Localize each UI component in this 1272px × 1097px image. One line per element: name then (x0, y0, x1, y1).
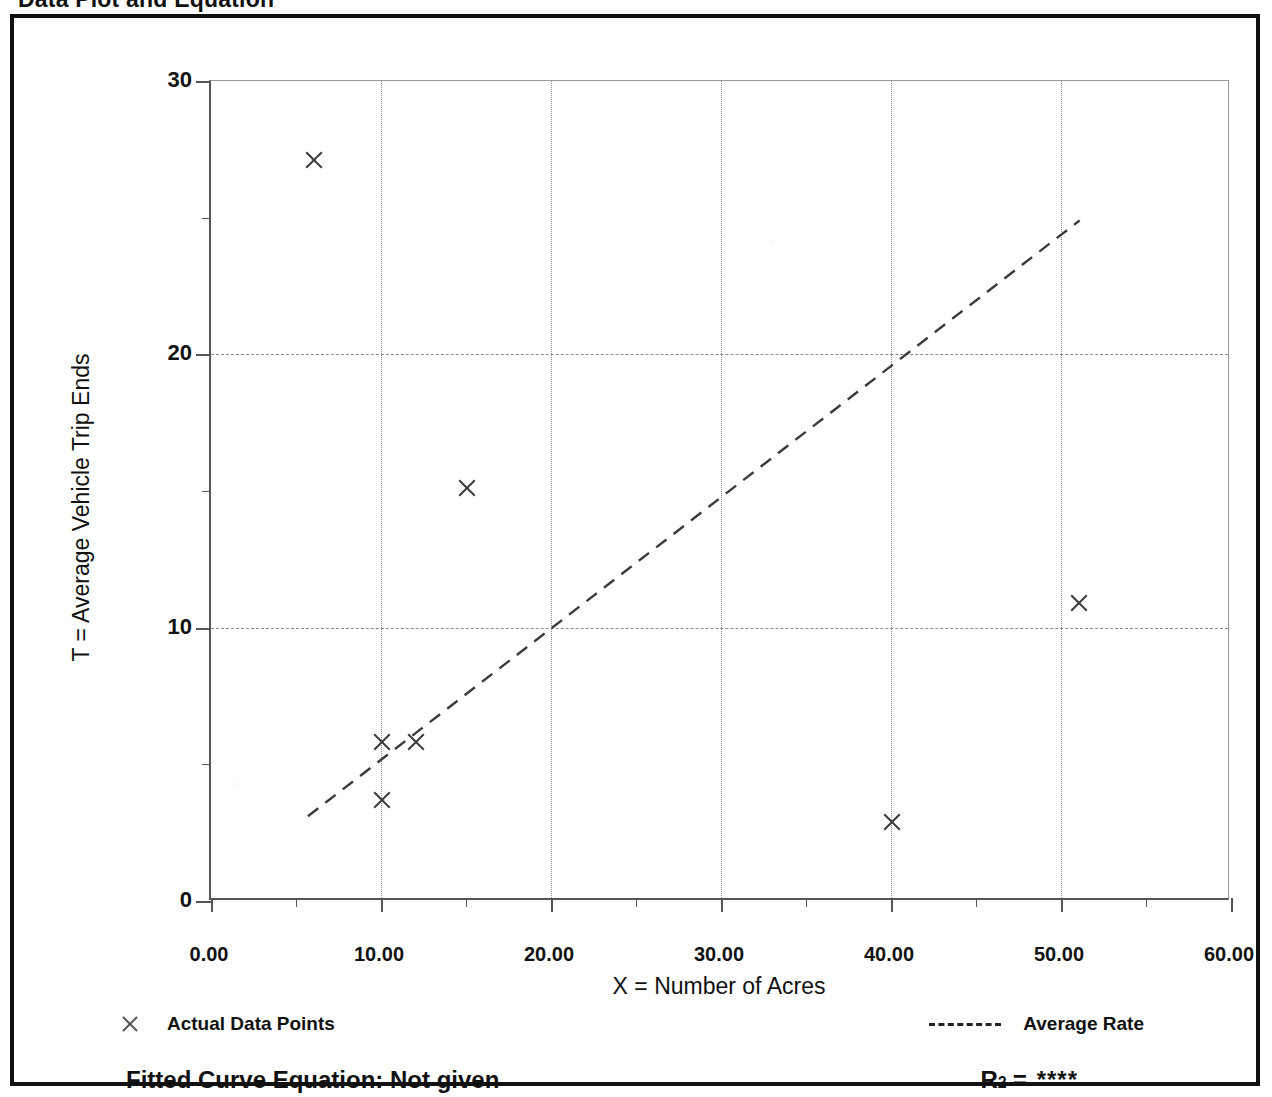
x-axis-tick-label: 0.00 (190, 943, 229, 966)
y-axis-minor-tick (202, 764, 211, 765)
r-squared-equals: = (1013, 1066, 1027, 1094)
chart-legend: Actual Data Points Average Rate (14, 1013, 1256, 1043)
x-axis-tick-label: 40.00 (864, 943, 914, 966)
r-squared-label: R (980, 1066, 997, 1094)
y-axis-tick-label: 10 (144, 614, 192, 640)
x-marker-icon (119, 1014, 139, 1034)
r-squared-block: R2 = **** (980, 1066, 1078, 1094)
legend-item-actual-data-points: Actual Data Points (119, 1013, 335, 1035)
y-axis-tick (196, 901, 211, 903)
legend-label-actual-data-points: Actual Data Points (167, 1013, 335, 1035)
x-axis-tick-label: 30.00 (694, 943, 744, 966)
y-axis-title: T = Average Vehicle Trip Ends (68, 228, 95, 788)
y-axis-tick (196, 354, 211, 356)
x-axis-tick-label: 60.00 (1204, 943, 1254, 966)
chart-footer: Fitted Curve Equation: Not given R2 = **… (14, 1066, 1256, 1097)
r-squared-value: **** (1037, 1066, 1078, 1094)
y-axis-tick (196, 81, 211, 83)
x-axis-title: X = Number of Acres (209, 973, 1229, 1000)
legend-label-average-rate: Average Rate (1023, 1013, 1144, 1035)
x-axis-tick (1231, 898, 1233, 912)
y-axis-tick-label: 0 (144, 887, 192, 913)
dashed-line-icon (929, 1023, 1001, 1026)
fitted-curve-equation: Fitted Curve Equation: Not given (126, 1066, 499, 1094)
y-axis-minor-tick (202, 491, 211, 492)
x-axis-tick-label: 20.00 (524, 943, 574, 966)
average-rate-trend-line (211, 81, 1231, 901)
x-axis-tick-label: 10.00 (354, 943, 404, 966)
x-axis-tick-label: 50.00 (1034, 943, 1084, 966)
y-axis-tick (196, 628, 211, 630)
r-squared-exponent: 2 (998, 1074, 1007, 1092)
page-title: Data Plot and Equation (18, 0, 274, 13)
y-axis-tick-label: 20 (144, 340, 192, 366)
legend-item-average-rate: Average Rate (929, 1013, 1144, 1035)
y-axis-tick-label: 30 (144, 67, 192, 93)
plot-area (209, 80, 1229, 900)
figure-frame: T = Average Vehicle Trip Ends X = Number… (10, 14, 1260, 1086)
y-axis-minor-tick (202, 218, 211, 219)
